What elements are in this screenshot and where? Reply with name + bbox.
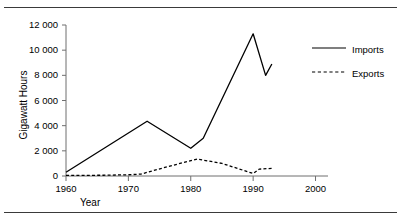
chart-axes	[62, 25, 328, 181]
y-axis-ticks	[62, 25, 66, 176]
y-axis-title: Gigawatt Hours	[19, 50, 29, 160]
chart-series-group	[66, 34, 272, 176]
series-line-exports	[66, 159, 272, 175]
legend-item-imports-label: Imports	[352, 44, 384, 55]
series-line-imports	[66, 34, 272, 172]
x-axis-tick-label: 2000	[296, 184, 336, 194]
chart-figure: 02 0004 0006 0008 00010 00012 000 196019…	[0, 0, 401, 223]
x-axis-tick-label: 1960	[46, 184, 86, 194]
y-axis-tick-label: 12 000	[16, 20, 58, 30]
x-axis-title: Year	[80, 198, 100, 208]
x-axis-ticks	[66, 176, 316, 181]
x-axis-tick-label: 1980	[171, 184, 211, 194]
legend-sample-lines	[312, 48, 346, 72]
x-axis-tick-label: 1970	[108, 184, 148, 194]
legend-item-exports-label: Exports	[352, 68, 384, 79]
y-axis-tick-label: 0	[16, 171, 58, 181]
x-axis-tick-label: 1990	[233, 184, 273, 194]
